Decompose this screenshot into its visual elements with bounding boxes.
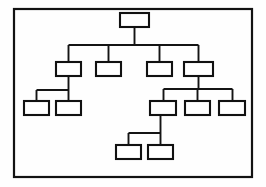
- org-node-n4[interactable]: [184, 62, 213, 76]
- org-node-n7[interactable]: [150, 101, 176, 115]
- node-box-n11[interactable]: [148, 145, 173, 159]
- node-box-n10[interactable]: [116, 145, 141, 159]
- org-node-n8[interactable]: [185, 101, 210, 115]
- node-box-n1[interactable]: [56, 62, 81, 76]
- org-node-n6[interactable]: [56, 101, 81, 115]
- node-box-n8[interactable]: [185, 101, 210, 115]
- org-node-n10[interactable]: [116, 145, 141, 159]
- node-box-n6[interactable]: [56, 101, 81, 115]
- org-node-n2[interactable]: [96, 62, 121, 76]
- node-box-n4[interactable]: [184, 62, 213, 76]
- org-node-n0[interactable]: [120, 13, 149, 27]
- org-chart-svg: [0, 0, 266, 187]
- node-box-n9[interactable]: [219, 101, 245, 115]
- org-node-n5[interactable]: [24, 101, 49, 115]
- node-box-n0[interactable]: [120, 13, 149, 27]
- diagram-canvas: [0, 0, 266, 187]
- org-node-n1[interactable]: [56, 62, 81, 76]
- org-node-n9[interactable]: [219, 101, 245, 115]
- node-box-n3[interactable]: [147, 62, 172, 76]
- node-box-n7[interactable]: [150, 101, 176, 115]
- org-node-n3[interactable]: [147, 62, 172, 76]
- org-node-n11[interactable]: [148, 145, 173, 159]
- node-box-n2[interactable]: [96, 62, 121, 76]
- connector-layer: [37, 27, 233, 145]
- node-box-n5[interactable]: [24, 101, 49, 115]
